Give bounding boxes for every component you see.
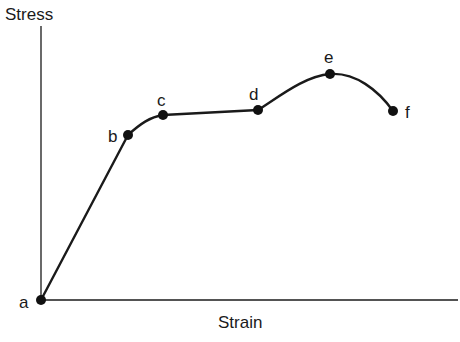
point-e-marker xyxy=(325,69,335,79)
point-f-marker xyxy=(388,106,398,116)
point-b-label: b xyxy=(108,127,117,146)
point-c-marker xyxy=(158,110,168,120)
point-e-label: e xyxy=(324,48,333,67)
point-f-label: f xyxy=(405,103,410,122)
diagram-canvas: Stress Strain a b c d e f xyxy=(0,0,460,342)
y-axis-label: Stress xyxy=(5,5,53,24)
point-c-label: c xyxy=(157,91,166,110)
point-d-label: d xyxy=(249,85,258,104)
stress-strain-curve xyxy=(41,74,393,300)
x-axis-label: Strain xyxy=(218,313,262,332)
point-a-label: a xyxy=(19,293,29,312)
point-d-marker xyxy=(253,105,263,115)
stress-strain-diagram: Stress Strain a b c d e f xyxy=(0,0,460,342)
point-a-marker xyxy=(36,295,46,305)
point-b-marker xyxy=(123,130,133,140)
